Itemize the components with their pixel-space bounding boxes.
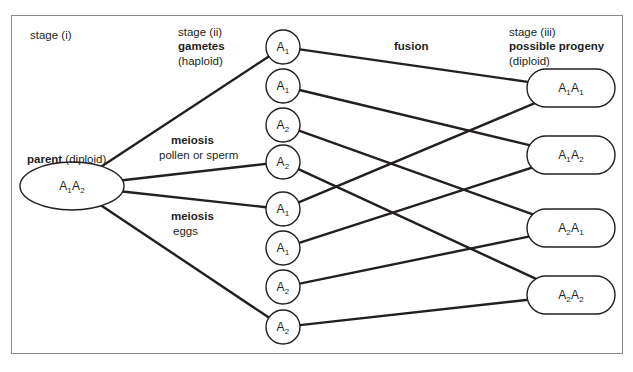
label-possible-progeny: possible progeny bbox=[509, 39, 604, 54]
progeny-4-label: A2A2 bbox=[558, 288, 584, 302]
progeny-2-label: A1A2 bbox=[558, 148, 584, 162]
gamete-8-label: A2 bbox=[277, 320, 290, 334]
gamete-7-label: A2 bbox=[277, 280, 290, 294]
gamete-3-label: A2 bbox=[277, 118, 290, 132]
gamete-6-label: A1 bbox=[277, 241, 290, 255]
gamete-4-label: A2 bbox=[277, 155, 290, 169]
gamete-2-label: A1 bbox=[277, 79, 290, 93]
label-stage-ii: stage (ii) bbox=[178, 25, 222, 40]
label-meiosis-pollen: meiosis bbox=[171, 133, 214, 148]
label-progeny-diploid: (diploid) bbox=[509, 54, 550, 69]
label-gametes-haploid: (haploid) bbox=[178, 54, 223, 69]
label-gametes: gametes bbox=[178, 39, 225, 54]
label-eggs: eggs bbox=[173, 224, 198, 239]
label-meiosis-eggs: meiosis bbox=[171, 209, 214, 224]
label-parent-bold: parent bbox=[27, 153, 62, 165]
progeny-3-label: A2A1 bbox=[558, 221, 584, 235]
gamete-1-label: A1 bbox=[277, 40, 290, 54]
genetics-diagram: stage (i) parent (diploid) stage (ii) ga… bbox=[0, 0, 633, 372]
clipped-header-strip bbox=[0, 0, 633, 12]
progeny-1-label: A1A1 bbox=[558, 81, 584, 95]
label-parent-rest: (diploid) bbox=[62, 153, 106, 165]
label-stage-i: stage (i) bbox=[30, 28, 72, 43]
gamete-5-label: A1 bbox=[277, 202, 290, 216]
label-fusion: fusion bbox=[394, 39, 429, 54]
label-pollen-or-sperm: pollen or sperm bbox=[159, 148, 238, 163]
label-parent: parent (diploid) bbox=[27, 152, 106, 167]
label-stage-iii: stage (iii) bbox=[509, 25, 556, 40]
parent-genotype-label: A1A2 bbox=[59, 179, 85, 193]
